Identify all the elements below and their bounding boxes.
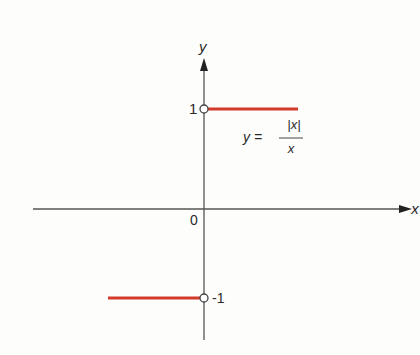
- x-axis-label: x: [410, 200, 419, 217]
- ytick-label-neg1: -1: [212, 290, 225, 306]
- x-axis-arrow-icon: [399, 205, 412, 213]
- formula-lhs: y =: [242, 129, 262, 145]
- y-axis-arrow-icon: [200, 58, 208, 71]
- y-axis-label: y: [198, 38, 208, 55]
- formula-denominator: x: [287, 141, 295, 156]
- open-endpoint-bottom: [200, 294, 208, 302]
- origin-label: 0: [190, 212, 198, 228]
- chart-figure: y x 0 1 -1 y = |x| x: [0, 0, 420, 355]
- formula-numerator: |x|: [287, 117, 300, 132]
- plot-area: y x 0 1 -1 y = |x| x: [0, 0, 420, 355]
- ytick-label-1: 1: [189, 100, 197, 117]
- open-endpoint-top: [200, 105, 208, 113]
